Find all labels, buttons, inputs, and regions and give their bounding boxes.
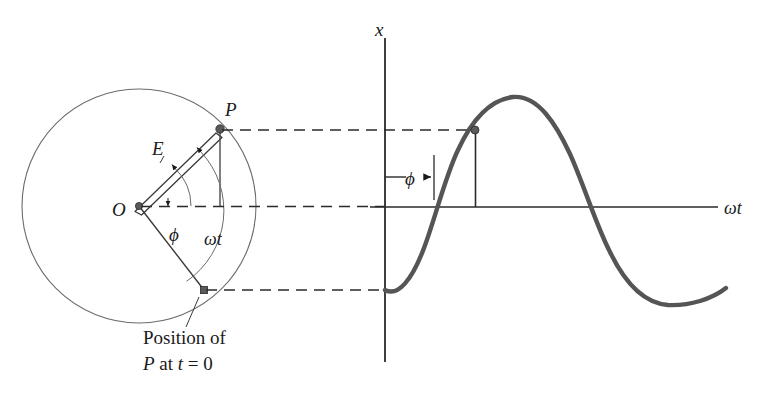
label-point-p: P — [224, 99, 237, 120]
projection-dashed-lines — [141, 130, 477, 290]
arc-phi — [175, 168, 191, 206]
arc-omega-t — [187, 152, 224, 281]
label-axis-omega-t: ωt — [724, 198, 743, 218]
label-center-o: O — [112, 199, 126, 220]
physics-figure: P O E ϕ ωt Position of P at t = 0 — [0, 0, 772, 393]
label-axis-x: x — [374, 19, 384, 40]
sine-curve — [385, 97, 726, 305]
caption-line-2: P at t = 0 — [142, 353, 213, 374]
label-phase-phi-wave: ϕ — [405, 168, 415, 189]
radius-line-t0 — [139, 206, 204, 290]
reference-circle-group: P O E ϕ ωt Position of P at t = 0 — [22, 89, 256, 374]
label-phase-phi: ϕ — [169, 224, 179, 245]
label-omega-t-circle: ωt — [204, 229, 223, 249]
figure-canvas: P O E ϕ ωt Position of P at t = 0 — [0, 0, 772, 393]
rotating-rod — [135, 133, 222, 215]
point-p-dot — [216, 125, 224, 133]
wave-marked-point — [471, 126, 479, 134]
arc-phi-arrowhead — [172, 165, 175, 169]
wave-plot-group: x ωt ϕ — [370, 19, 743, 362]
label-amplitude-e: E — [151, 138, 164, 159]
caption-line-1: Position of — [143, 327, 227, 348]
